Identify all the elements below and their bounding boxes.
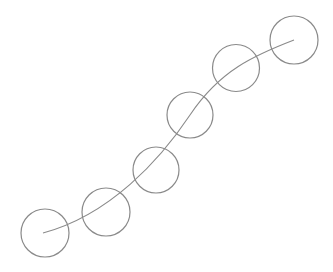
diagram-canvas bbox=[0, 0, 333, 272]
node-circle-2 bbox=[82, 188, 130, 236]
node-circle-3 bbox=[133, 147, 179, 193]
node-group bbox=[21, 16, 318, 257]
connecting-curve bbox=[43, 40, 294, 233]
